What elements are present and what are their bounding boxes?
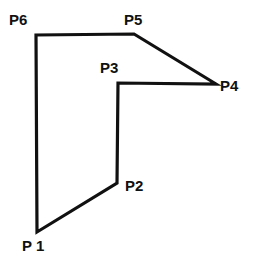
vertex-label-p6: P6 — [9, 12, 27, 27]
polygon-outline-path — [36, 34, 216, 232]
vertex-label-p4: P4 — [220, 78, 238, 93]
vertex-label-p1: P 1 — [22, 238, 44, 253]
polygon-shape — [0, 0, 253, 262]
figure-canvas: P6 P5 P4 P3 P2 P 1 — [0, 0, 253, 262]
vertex-label-p5: P5 — [124, 12, 142, 27]
vertex-label-p2: P2 — [125, 178, 143, 193]
vertex-label-p3: P3 — [100, 60, 118, 75]
